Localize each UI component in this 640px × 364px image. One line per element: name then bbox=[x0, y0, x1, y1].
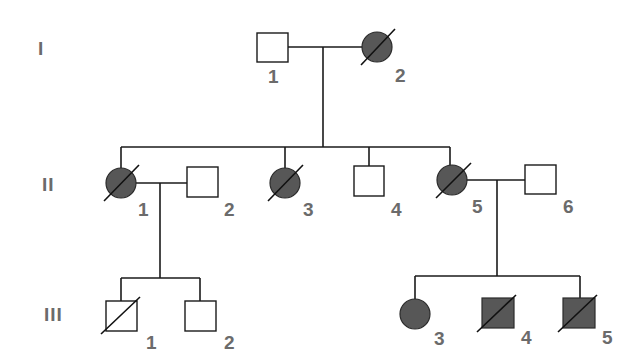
individual-II-6[interactable]: 6 bbox=[525, 165, 574, 217]
individual-number: 2 bbox=[224, 199, 235, 220]
male-unaffected-symbol bbox=[187, 167, 218, 197]
male-unaffected-symbol bbox=[525, 165, 556, 194]
individual-number: 4 bbox=[391, 199, 402, 220]
mating-II5-II6 bbox=[465, 180, 525, 276]
individual-II-5[interactable]: 5 bbox=[436, 163, 483, 217]
male-unaffected-symbol bbox=[185, 301, 216, 331]
individual-II-3[interactable]: 3 bbox=[268, 165, 314, 220]
individual-II-2[interactable]: 2 bbox=[187, 167, 235, 220]
individual-number: 1 bbox=[268, 66, 279, 87]
individual-III-1[interactable]: 1 bbox=[101, 297, 157, 353]
sibship-II bbox=[121, 147, 450, 168]
male-unaffected-symbol bbox=[354, 166, 384, 196]
individual-number: 5 bbox=[472, 196, 483, 217]
sibship-III-right bbox=[415, 276, 580, 299]
generation-label-I: I bbox=[38, 38, 44, 59]
individual-number: 2 bbox=[395, 65, 406, 86]
male-unaffected-symbol bbox=[106, 301, 137, 331]
individual-number: 1 bbox=[138, 199, 149, 220]
individual-number: 4 bbox=[521, 327, 532, 348]
female-affected-symbol bbox=[400, 299, 430, 329]
female-affected-symbol bbox=[437, 165, 467, 195]
individual-III-2[interactable]: 2 bbox=[185, 301, 235, 353]
individual-number: 3 bbox=[303, 199, 314, 220]
generation-label-III: III bbox=[44, 304, 63, 325]
individual-number: 3 bbox=[434, 328, 445, 349]
mating-II1-II2 bbox=[136, 183, 187, 278]
individual-II-1[interactable]: 1 bbox=[104, 165, 149, 220]
generation-label-II: II bbox=[42, 174, 55, 195]
individual-I-1[interactable]: 1 bbox=[257, 33, 288, 87]
individual-number: 6 bbox=[563, 196, 574, 217]
individual-number: 2 bbox=[224, 332, 235, 353]
individual-number: 1 bbox=[146, 332, 157, 353]
individual-number: 5 bbox=[602, 327, 613, 348]
individual-III-3[interactable]: 3 bbox=[400, 299, 445, 349]
mating-I1-I2 bbox=[288, 47, 362, 147]
male-unaffected-symbol bbox=[257, 33, 288, 62]
sibship-III-left bbox=[121, 278, 200, 301]
pedigree-chart: I II III 1 2 1 2 3 bbox=[0, 0, 640, 364]
individual-III-4[interactable]: 4 bbox=[477, 295, 532, 348]
individual-I-2[interactable]: 2 bbox=[361, 29, 406, 86]
individual-II-4[interactable]: 4 bbox=[354, 166, 402, 220]
individual-III-5[interactable]: 5 bbox=[558, 295, 613, 348]
